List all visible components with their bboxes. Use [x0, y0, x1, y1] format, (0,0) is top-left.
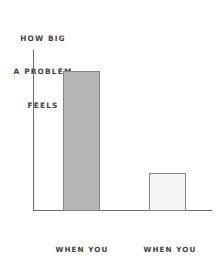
y-axis-caption-line-1: HOW BIG: [4, 33, 82, 44]
y-axis-line: [33, 50, 34, 211]
bar-talk-to-someone: [149, 173, 186, 211]
category-1-line-1: WHEN YOU: [35, 244, 129, 255]
bar-chart: HOW BIG A PROBLEM FEELS WHEN YOU SHOULDE…: [0, 0, 218, 272]
category-label-talk-to-someone: WHEN YOU CAN TALK TO SOMEONE ABOUT IT: [123, 222, 217, 272]
category-2-line-1: WHEN YOU: [123, 244, 217, 255]
category-label-shoulder-it-alone: WHEN YOU SHOULDER IT ALONE: [35, 222, 129, 272]
bar-shoulder-it-alone: [63, 71, 100, 211]
